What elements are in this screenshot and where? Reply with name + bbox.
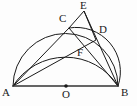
arc-through-c <box>13 57 118 86</box>
segment-de <box>84 11 96 40</box>
vertex-label-a: A <box>2 87 10 98</box>
vertex-label-f: F <box>77 47 83 58</box>
vertex-label-o: O <box>62 89 70 100</box>
arc-semicircle-on-ab <box>13 34 118 87</box>
segment-ce <box>69 11 84 28</box>
segment-ad <box>13 40 96 86</box>
vertex-label-b: B <box>121 87 128 98</box>
vertex-label-d: D <box>99 24 107 35</box>
vertex-label-e: E <box>80 0 87 11</box>
vertex-label-c: C <box>59 13 66 24</box>
geometry-figure: A B C D E F O <box>0 0 137 106</box>
